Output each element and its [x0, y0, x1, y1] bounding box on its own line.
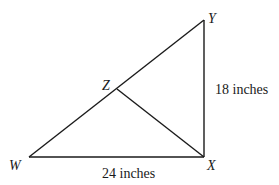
measurement-wx: 24 inches [102, 166, 155, 181]
point-label-x: X [206, 158, 216, 173]
triangle-diagram: Y Z W X 18 inches 24 inches [0, 0, 279, 185]
point-label-w: W [9, 158, 22, 173]
point-label-z: Z [102, 78, 110, 93]
point-label-y: Y [208, 11, 218, 26]
segment-zx [117, 89, 204, 157]
measurement-xy: 18 inches [215, 82, 268, 97]
